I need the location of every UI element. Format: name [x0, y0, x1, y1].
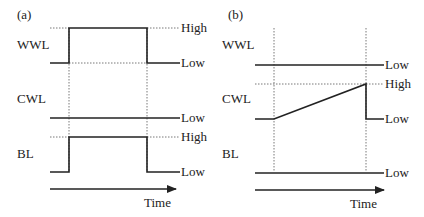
wwl-high-label: High	[181, 20, 208, 35]
signal-label-wwl: WWL	[222, 37, 255, 52]
wwl-waveform	[50, 28, 180, 63]
cwl-high-label: High	[385, 76, 412, 91]
signal-label-bl: BL	[222, 146, 239, 161]
bl-high-label: High	[181, 129, 208, 144]
bl-low-label: Low	[385, 165, 409, 180]
cwl-low-label: Low	[181, 110, 205, 125]
panel-a: (a) WWL High Low CWL Low BL High Low Tim…	[17, 7, 208, 210]
signal-label-wwl: WWL	[17, 37, 50, 52]
panel-b-label: (b)	[228, 7, 243, 22]
time-axis-label: Time	[144, 195, 171, 210]
time-axis-label: Time	[350, 196, 377, 211]
panel-a-label: (a)	[17, 7, 31, 22]
timing-diagram: (a) WWL High Low CWL Low BL High Low Tim…	[0, 0, 424, 217]
wwl-low-label: Low	[181, 55, 205, 70]
wwl-low-label: Low	[385, 57, 409, 72]
cwl-low-label: Low	[385, 111, 409, 126]
bl-waveform	[50, 137, 180, 172]
panel-b: (b) WWL Low CWL High Low BL Low Time	[222, 7, 412, 211]
signal-label-cwl: CWL	[222, 91, 251, 106]
signal-label-cwl: CWL	[17, 91, 46, 106]
bl-low-label: Low	[181, 164, 205, 179]
signal-label-bl: BL	[17, 146, 34, 161]
